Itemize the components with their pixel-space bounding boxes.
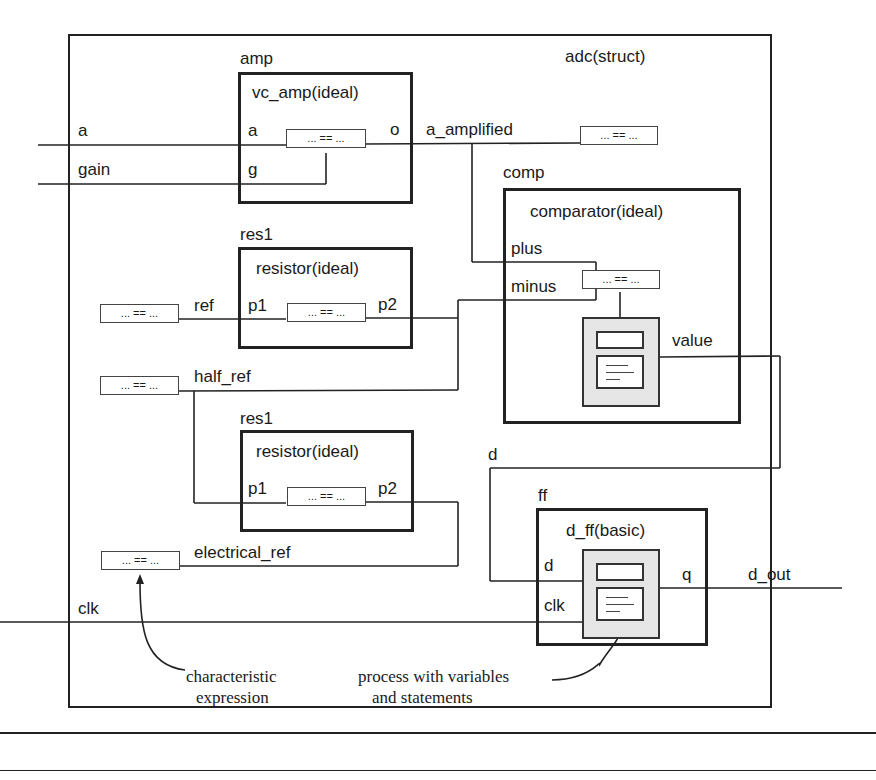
comp-entity-label: comparator(ideal) (530, 203, 663, 221)
res-top-entity-label: resistor(ideal) (256, 260, 359, 278)
ff-port-q: q (682, 566, 691, 584)
comp-instance-label: comp (503, 164, 545, 182)
res-top-port-p1: p1 (248, 297, 267, 315)
process-variables-icon (596, 331, 644, 349)
ref-expression[interactable]: ... == ... (100, 304, 179, 323)
process-variables-icon (596, 563, 644, 581)
architecture-label: adc(struct) (565, 48, 645, 66)
comp-characteristic-expression[interactable]: ... == ... (582, 270, 660, 289)
ff-entity-label: d_ff(basic) (566, 522, 645, 540)
amp-instance-label: amp (240, 50, 273, 68)
res-bottom-instance-label: res1 (240, 410, 273, 428)
signal-a-label: a (78, 122, 87, 140)
res-top-instance-label: res1 (240, 226, 273, 244)
comp-process-block[interactable] (582, 317, 660, 407)
signal-electrical-ref-label: electrical_ref (194, 544, 290, 562)
amp-port-a: a (248, 122, 257, 140)
a-amplified-expression[interactable]: ... == ... (580, 126, 658, 145)
comp-port-minus: minus (511, 278, 556, 296)
amp-port-g: g (248, 161, 257, 179)
res-bottom-characteristic-expression[interactable]: ... == ... (287, 487, 366, 506)
ff-instance-label: ff (538, 487, 547, 505)
res-bottom-port-p1: p1 (248, 480, 267, 498)
signal-clk-label: clk (78, 600, 99, 618)
bottom-rule-bottom (0, 770, 876, 771)
res-top-port-p2: p2 (378, 296, 397, 314)
amp-characteristic-expression[interactable]: ... == ... (286, 129, 366, 148)
ff-port-d: d (544, 557, 553, 575)
res-bottom-port-p2: p2 (378, 480, 397, 498)
bottom-rule-top (0, 732, 876, 734)
res-bottom-entity-label: resistor(ideal) (256, 443, 359, 461)
signal-ref-label: ref (194, 297, 214, 315)
signal-gain-label: gain (78, 161, 110, 179)
ff-port-clk: clk (544, 597, 565, 615)
signal-a-amplified-label: a_amplified (426, 121, 513, 139)
annotation-characteristic-line2: expression (196, 688, 269, 708)
half-ref-expression[interactable]: ... == ... (100, 376, 179, 395)
electrical-ref-expression[interactable]: ... == ... (101, 551, 180, 570)
signal-d-out-label: d_out (748, 566, 791, 584)
annotation-process-line2: and statements (372, 688, 473, 708)
process-statements-icon (596, 587, 644, 621)
ff-process-block[interactable] (582, 549, 660, 639)
annotation-process-line1: process with variables (358, 667, 509, 687)
comp-port-value: value (672, 332, 713, 350)
res-top-characteristic-expression[interactable]: ... == ... (287, 303, 366, 322)
comp-port-plus: plus (511, 240, 542, 258)
signal-d-label: d (488, 446, 497, 464)
signal-half-ref-label: half_ref (194, 368, 251, 386)
amp-port-o: o (390, 121, 399, 139)
amp-entity-label: vc_amp(ideal) (252, 84, 359, 102)
process-statements-icon (596, 355, 644, 389)
annotation-characteristic-line1: characteristic (186, 667, 277, 687)
